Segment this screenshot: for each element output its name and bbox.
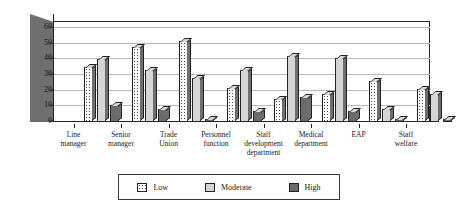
bar-side-face <box>425 87 429 121</box>
bar-high[interactable] <box>205 119 214 122</box>
bar-high[interactable] <box>110 105 119 122</box>
bar-moderate[interactable] <box>145 70 154 122</box>
bar-side-face <box>187 38 191 121</box>
bar-high[interactable] <box>348 111 357 122</box>
bar-side-face <box>92 65 96 121</box>
x-axis-labels: LinemanagerSeniormanagerTradeUnionPerson… <box>54 124 450 164</box>
legend-swatch-high <box>289 183 299 192</box>
y-axis-tick-mark <box>49 27 54 28</box>
bar-side-face <box>343 56 347 121</box>
bar-moderate[interactable] <box>382 109 391 122</box>
y-axis-tick-mark <box>49 121 54 122</box>
x-axis-tick-mark <box>121 124 122 128</box>
plot-area: 0102030405060 <box>30 14 430 122</box>
bars-layer <box>84 35 430 122</box>
bar-low[interactable] <box>369 81 378 122</box>
bar-high[interactable] <box>253 111 262 122</box>
bar-side-face <box>282 96 286 121</box>
bar-side-face <box>377 79 381 121</box>
bar-side-face <box>308 95 312 121</box>
x-axis-category-label: Staffwelfare <box>374 130 438 148</box>
bar-moderate[interactable] <box>240 70 249 122</box>
x-axis-tick-mark <box>169 124 170 128</box>
bar-side-face <box>248 68 252 121</box>
legend-item-high[interactable]: High <box>289 183 321 192</box>
bar-low[interactable] <box>417 89 426 122</box>
gridline <box>54 27 430 28</box>
x-axis-tick-mark <box>406 124 407 128</box>
x-axis-tick-mark <box>264 124 265 128</box>
bar-low[interactable] <box>322 94 331 122</box>
bar-high[interactable] <box>443 119 452 122</box>
bar-side-face <box>295 54 299 121</box>
bar-side-face <box>235 85 239 121</box>
bar-low[interactable] <box>132 47 141 122</box>
x-axis-tick-mark <box>216 124 217 128</box>
bar-side-face <box>153 68 157 121</box>
bar-moderate[interactable] <box>335 58 344 122</box>
legend-item-moderate[interactable]: Moderate <box>205 183 252 192</box>
bar-moderate[interactable] <box>192 78 201 122</box>
bar-side-face <box>438 92 442 121</box>
y-axis-tick-mark <box>49 105 54 106</box>
legend-label: Low <box>153 183 168 192</box>
bar-high[interactable] <box>395 119 404 122</box>
legend-label: High <box>305 183 321 192</box>
legend-label: Moderate <box>221 183 252 192</box>
bar-side-face <box>330 92 334 121</box>
bar-low[interactable] <box>84 67 93 122</box>
bar-side-face <box>105 57 109 121</box>
bar-low[interactable] <box>227 88 236 122</box>
y-axis-tick-mark <box>49 42 54 43</box>
y-axis-tick-mark <box>49 89 54 90</box>
bar-high[interactable] <box>158 109 167 122</box>
chart-legend: LowModerateHigh <box>118 174 340 200</box>
legend-swatch-low <box>137 183 147 192</box>
y-axis-tick-mark <box>49 58 54 59</box>
legend-swatch-moderate <box>205 183 215 192</box>
bar-side-face <box>140 45 144 121</box>
bar-moderate[interactable] <box>430 94 439 122</box>
bar-low[interactable] <box>179 41 188 122</box>
x-axis-tick-mark <box>311 124 312 128</box>
bar-high[interactable] <box>300 97 309 122</box>
bar-side-face <box>200 76 204 121</box>
x-axis-tick-mark <box>359 124 360 128</box>
x-axis-tick-mark <box>74 124 75 128</box>
bar-low[interactable] <box>274 99 283 123</box>
bar-moderate[interactable] <box>97 59 106 122</box>
bar-moderate[interactable] <box>287 56 296 122</box>
legend-item-low[interactable]: Low <box>137 183 168 192</box>
y-axis-tick-mark <box>49 74 54 75</box>
